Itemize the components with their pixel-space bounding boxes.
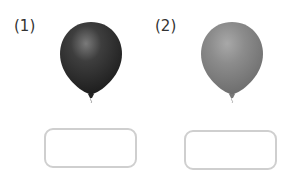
answer-box-2[interactable] xyxy=(184,130,277,170)
item-1-label: (1) xyxy=(14,17,35,35)
answer-box-1[interactable] xyxy=(44,128,137,168)
item-2-label: (2) xyxy=(155,17,176,35)
dark-balloon-icon xyxy=(58,20,124,104)
grey-balloon-icon xyxy=(199,20,265,104)
